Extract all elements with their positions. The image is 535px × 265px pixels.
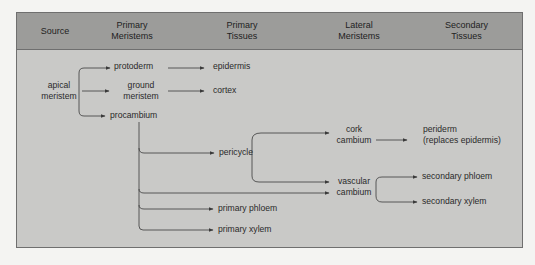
node-cortex: cortex [213, 85, 236, 96]
column-header-primary-tissues: Primary Tissues [207, 13, 277, 49]
node-protoderm: protoderm [114, 61, 153, 72]
node-apical-meristem: apical meristem [36, 80, 82, 102]
node-primary-xylem: primary xylem [218, 224, 271, 235]
column-header-source: Source [25, 13, 85, 49]
node-cork-cambium: cork cambium [330, 124, 378, 146]
node-ground-meristem: ground meristem [116, 80, 166, 102]
node-epidermis: epidermis [213, 61, 250, 72]
node-secondary-xylem: secondary xylem [422, 196, 486, 207]
node-pericycle: pericycle [219, 147, 253, 158]
node-periderm: periderm (replaces epidermis) [423, 124, 501, 146]
column-header-bar: Source Primary Meristems Primary Tissues… [17, 13, 522, 50]
column-header-secondary-tissues: Secondary Tissues [429, 13, 504, 49]
node-primary-phloem: primary phloem [218, 203, 277, 214]
column-header-primary-meristems: Primary Meristems [97, 13, 167, 49]
node-vascular-cambium: vascular cambium [330, 176, 378, 198]
column-header-lateral-meristems: Lateral Meristems [324, 13, 394, 49]
node-procambium: procambium [110, 110, 157, 121]
node-secondary-phloem: secondary phloem [422, 171, 492, 182]
